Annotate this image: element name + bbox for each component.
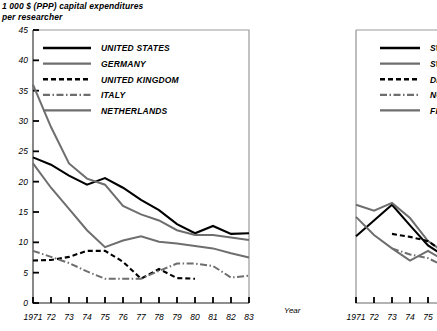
- legend-label: GERMANY: [101, 59, 147, 69]
- y-axis-tick-label: 40: [19, 55, 29, 65]
- x-axis-label: Year: [284, 306, 300, 315]
- y-axis-tick-label: 20: [18, 177, 29, 187]
- y-axis-tick-label: 0: [23, 298, 28, 308]
- chart-left-svg: 0510152025303540451971727374757677787980…: [0, 22, 268, 331]
- x-axis-tick-label: 74: [405, 312, 415, 322]
- series-line: [33, 157, 249, 233]
- x-axis-tick-label: 75: [423, 312, 433, 322]
- chart-panel-left: 0510152025303540451971727374757677787980…: [0, 22, 268, 331]
- figure-title: 1 000 $ (PPP) capital expenditures per r…: [2, 1, 232, 23]
- x-axis-tick-label: 1971: [24, 312, 43, 322]
- x-axis-tick-label: 74: [82, 312, 92, 322]
- legend-label: SW: [430, 59, 437, 69]
- series-line: [33, 163, 249, 257]
- x-axis-tick-label: 83: [244, 312, 254, 322]
- x-axis-tick-label: 72: [369, 312, 379, 322]
- x-axis-tick-label: 76: [118, 312, 128, 322]
- figure-title-line-1: 1 000 $ (PPP) capital expenditures: [2, 1, 232, 12]
- y-axis-tick-label: 10: [19, 237, 29, 247]
- x-axis-tick-label: 72: [46, 312, 56, 322]
- x-axis-tick-label: 73: [387, 312, 397, 322]
- axis-frame-left-bottom: [356, 30, 437, 303]
- axis-frame-left-bottom: [33, 30, 249, 303]
- chart-right-svg: 197172737475SWSWDENOFIN: [338, 22, 437, 331]
- x-axis-tick-label: 79: [172, 312, 182, 322]
- series-line: [33, 251, 195, 279]
- legend-label: NETHERLANDS: [101, 106, 168, 116]
- axis-frame-top-right: [33, 30, 249, 303]
- series-line: [33, 251, 249, 279]
- legend-label: DE: [430, 75, 437, 85]
- y-axis-tick-label: 25: [18, 146, 29, 156]
- legend-label: SW: [430, 43, 437, 53]
- x-axis-tick-label: 81: [208, 312, 218, 322]
- figure-root: 1 000 $ (PPP) capital expenditures per r…: [0, 0, 437, 331]
- x-axis-tick-label: 73: [64, 312, 74, 322]
- x-axis-tick-label: 82: [226, 312, 236, 322]
- legend-label: UNITED KINGDOM: [101, 75, 180, 85]
- x-axis-tick-label: 77: [136, 312, 146, 322]
- y-axis-tick-label: 15: [19, 207, 29, 217]
- y-axis-tick-label: 5: [23, 268, 28, 278]
- x-axis-tick-label: 75: [100, 312, 110, 322]
- x-axis-tick-label: 1971: [347, 312, 366, 322]
- legend-label: UNITED STATES: [101, 43, 170, 53]
- y-axis-tick-label: 35: [19, 86, 29, 96]
- y-axis-tick-label: 30: [19, 116, 29, 126]
- legend-label: ITALY: [101, 90, 126, 100]
- y-axis-tick-label: 45: [19, 25, 29, 35]
- legend-label: FIN: [430, 106, 437, 116]
- x-axis-tick-label: 80: [190, 312, 200, 322]
- x-axis-tick-label: 78: [154, 312, 164, 322]
- legend-label: NO: [430, 90, 437, 100]
- chart-panel-right: 197172737475SWSWDENOFIN: [338, 22, 437, 331]
